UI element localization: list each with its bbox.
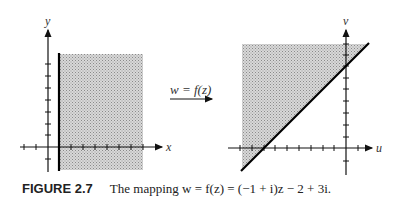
left-plot [20, 30, 162, 172]
figure-canvas [0, 0, 408, 205]
caption-text: The mapping w = f(z) = (−1 + i)z − 2 + 3… [110, 181, 331, 196]
shaded-region-z [59, 54, 143, 170]
right-plot [228, 30, 372, 175]
figure-number: FIGURE 2.7 [22, 181, 93, 196]
x-axis-label: x [166, 140, 171, 155]
figure-caption: FIGURE 2.7 The mapping w = f(z) = (−1 + … [22, 181, 331, 197]
y-axis-label: y [45, 14, 50, 29]
v-axis-label: v [343, 14, 348, 29]
u-axis-label: u [376, 141, 382, 156]
mapping-label: w = f(z) [170, 82, 211, 98]
